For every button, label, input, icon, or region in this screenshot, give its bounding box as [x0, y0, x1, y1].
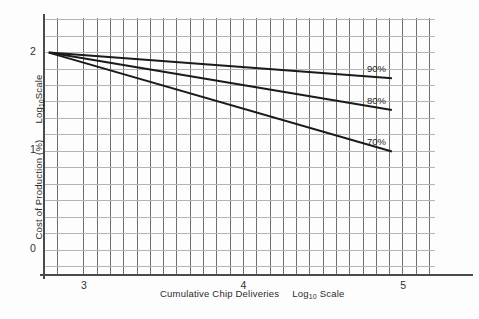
x-tick-label-3: 3	[70, 279, 98, 291]
y-axis-scale-tail: Scale	[33, 75, 44, 100]
y-axis-title: Cost of Production (%)Log10Scale	[28, 42, 46, 272]
y-axis-scale-main: Log	[33, 107, 44, 123]
series-line-90	[49, 53, 392, 79]
x-tick-label-5: 5	[389, 279, 417, 291]
x-axis-title: Cumulative Chip DeliveriesLog10 Scale	[160, 288, 345, 299]
series-label-70: 70%	[367, 136, 386, 147]
chart-container: 2 1 0 3 4 5 Cost of Production (%)Log10S…	[0, 0, 479, 319]
x-axis-title-name: Cumulative Chip Deliveries	[160, 288, 279, 299]
chart-plot-svg	[0, 0, 479, 319]
y-axis-scale-sub: 10	[38, 99, 45, 107]
x-axis-scale-sub: 10	[309, 293, 317, 300]
x-axis-scale-tail-word: Scale	[320, 288, 345, 299]
y-axis-title-name: Cost of Production (%)	[33, 140, 44, 240]
series-label-80: 80%	[367, 95, 386, 106]
series-label-90: 90%	[367, 63, 386, 74]
x-axis-scale-main: Log	[292, 288, 308, 299]
